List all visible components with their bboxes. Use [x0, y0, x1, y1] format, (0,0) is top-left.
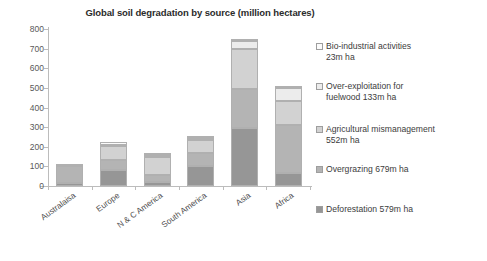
bar-segment[interactable] — [100, 170, 127, 186]
x-tick-mark — [310, 186, 311, 190]
legend-swatch-icon — [316, 126, 323, 133]
y-tick-label-text: 800 — [4, 25, 44, 33]
x-tick-mark — [223, 186, 224, 190]
y-tick-label-text: 0 — [4, 182, 44, 190]
bar-stack[interactable] — [187, 29, 214, 186]
x-tick-mark — [48, 186, 49, 190]
bar-stack[interactable] — [275, 29, 302, 186]
bar-segment[interactable] — [231, 41, 258, 49]
bar-segment[interactable] — [231, 89, 258, 128]
bar-segment[interactable] — [187, 140, 214, 153]
y-tick-label-text: 300 — [4, 123, 44, 131]
bar-segment[interactable] — [187, 138, 214, 140]
bar-segment[interactable] — [144, 175, 171, 182]
bar-segment[interactable] — [275, 86, 302, 88]
x-tick-mark — [179, 186, 180, 190]
bar-segment[interactable] — [275, 125, 302, 173]
bar-segment[interactable] — [56, 164, 83, 166]
legend-item[interactable]: Overgrazing 679m ha — [316, 164, 486, 175]
plot-area — [48, 29, 310, 186]
y-tick-label-text: 500 — [4, 84, 44, 92]
bar-segment[interactable] — [56, 183, 83, 186]
bar-segment[interactable] — [231, 49, 258, 89]
x-tick-mark — [92, 186, 93, 190]
legend-item[interactable]: Bio-industrial activities 23m ha — [316, 41, 486, 62]
legend-swatch-icon — [316, 83, 323, 90]
x-axis-line — [40, 186, 312, 187]
bar-segment[interactable] — [187, 136, 214, 138]
legend-label: Overgrazing 679m ha — [326, 164, 409, 175]
y-tick-label-text: 400 — [4, 104, 44, 112]
bar-segment[interactable] — [187, 153, 214, 166]
chart-figure: Global soil degradation by source (milli… — [0, 0, 487, 261]
legend-label: Bio-industrial activities 23m ha — [326, 41, 411, 62]
bar-segment[interactable] — [100, 160, 127, 170]
bar-stack[interactable] — [231, 29, 258, 186]
legend-item[interactable]: Deforestation 579m ha — [316, 204, 486, 215]
bar-segment[interactable] — [187, 166, 214, 186]
chart-title: Global soil degradation by source (milli… — [0, 7, 400, 18]
bar-stack[interactable] — [56, 29, 83, 186]
bar-segment[interactable] — [144, 182, 171, 186]
legend-swatch-icon — [316, 206, 323, 213]
bar-segment[interactable] — [144, 157, 171, 175]
legend-swatch-icon — [316, 43, 323, 50]
bar-segment[interactable] — [231, 39, 258, 41]
y-tick-label-text: 600 — [4, 64, 44, 72]
bar-segment[interactable] — [144, 155, 171, 157]
legend-label: Deforestation 579m ha — [326, 204, 413, 215]
legend-swatch-icon — [316, 166, 323, 173]
bar-segment[interactable] — [100, 142, 127, 146]
bar-segment[interactable] — [275, 88, 302, 101]
bar-segment[interactable] — [275, 101, 302, 125]
bar-stack[interactable] — [100, 29, 127, 186]
bar-segment[interactable] — [275, 173, 302, 186]
legend-label: Over-exploitation for fuelwood 133m ha — [326, 81, 403, 102]
bar-segment[interactable] — [100, 146, 127, 160]
legend-item[interactable]: Agricultural mismanagement 552m ha — [316, 124, 486, 145]
y-tick-label-text: 100 — [4, 162, 44, 170]
legend-item[interactable]: Over-exploitation for fuelwood 133m ha — [316, 81, 486, 102]
bar-segment[interactable] — [144, 153, 171, 155]
bar-segment[interactable] — [231, 128, 258, 186]
y-tick-label-text: 700 — [4, 45, 44, 53]
bar-stack[interactable] — [144, 29, 171, 186]
legend-label: Agricultural mismanagement 552m ha — [326, 124, 435, 145]
x-tick-mark — [266, 186, 267, 190]
y-tick-label-text: 200 — [4, 143, 44, 151]
bar-segment[interactable] — [56, 166, 83, 183]
x-tick-mark — [135, 186, 136, 190]
